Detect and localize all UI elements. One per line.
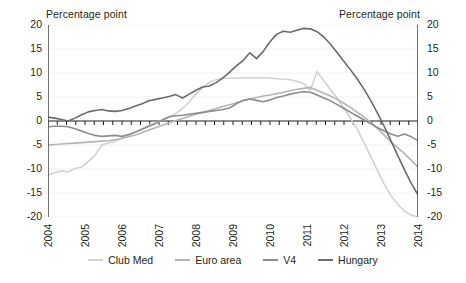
- y-axis-right-tick-label: -5: [427, 138, 455, 150]
- legend-label: Club Med: [108, 254, 153, 266]
- x-axis-tick-label: 2006: [116, 224, 128, 247]
- y-axis-left-tick-label: -20: [14, 210, 42, 222]
- x-axis-tick-label: 2011: [301, 224, 313, 247]
- y-axis-right-tick-label: -15: [427, 186, 455, 198]
- plot-svg: [48, 25, 418, 217]
- y-axis-left-tick-label: 5: [14, 90, 42, 102]
- x-axis-tick-label: 2013: [375, 224, 387, 247]
- x-axis-tick-label: 2008: [190, 224, 202, 247]
- legend-swatch-icon: [318, 259, 333, 261]
- series-line-hungary: [48, 28, 418, 195]
- x-axis-tick-label: 2004: [42, 224, 54, 247]
- y-axis-left-tick-label: 15: [14, 42, 42, 54]
- y-axis-right-tick-label: 10: [427, 66, 455, 78]
- y-axis-left-tick-label: 20: [14, 18, 42, 30]
- right-axis-title: Percentage point: [339, 8, 420, 20]
- legend-label: Euro area: [195, 254, 241, 266]
- legend-item[interactable]: V4: [263, 254, 296, 266]
- x-axis-tick-label: 2009: [227, 224, 239, 247]
- x-axis-tick-label: 2007: [153, 224, 165, 247]
- y-axis-right-tick-label: 5: [427, 90, 455, 102]
- y-axis-right-tick-label: 0: [427, 114, 455, 126]
- y-axis-left-tick-label: -10: [14, 162, 42, 174]
- legend-item[interactable]: Euro area: [175, 254, 241, 266]
- series-line-club-med: [48, 72, 418, 217]
- legend-item[interactable]: Club Med: [88, 254, 153, 266]
- x-axis-tick-label: 2005: [79, 224, 91, 247]
- y-axis-right-tick-label: -20: [427, 210, 455, 222]
- legend-label: Hungary: [338, 254, 378, 266]
- y-axis-right-tick-label: -10: [427, 162, 455, 174]
- x-axis-tick-label: 2014: [412, 224, 424, 247]
- legend-label: V4: [283, 254, 296, 266]
- y-axis-right-tick-label: 15: [427, 42, 455, 54]
- y-axis-left-tick-label: 0: [14, 114, 42, 126]
- chart-container: Percentage point Percentage point 201510…: [0, 0, 466, 283]
- legend-swatch-icon: [175, 259, 190, 261]
- y-axis-right-tick-label: 20: [427, 18, 455, 30]
- plot-area: [48, 25, 418, 217]
- chart-legend: Club MedEuro areaV4Hungary: [0, 254, 466, 266]
- x-axis-tick-label: 2012: [338, 224, 350, 247]
- y-axis-left-tick-label: -15: [14, 186, 42, 198]
- left-axis-title: Percentage point: [46, 8, 127, 20]
- y-axis-left-tick-label: 10: [14, 66, 42, 78]
- x-axis-tick-label: 2010: [264, 224, 276, 247]
- legend-swatch-icon: [263, 259, 278, 261]
- y-axis-left-tick-label: -5: [14, 138, 42, 150]
- series-line-euro-area: [48, 87, 418, 167]
- legend-item[interactable]: Hungary: [318, 254, 378, 266]
- legend-swatch-icon: [88, 259, 103, 261]
